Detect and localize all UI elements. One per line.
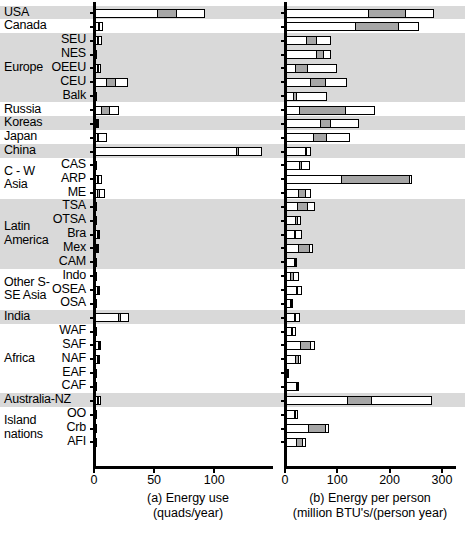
sub-label-osea: OSEA — [20, 283, 86, 296]
bar-segment-gray — [294, 259, 296, 266]
bar-segment-gray — [316, 51, 323, 58]
bar-segment-gray — [287, 370, 289, 377]
y-axis-a — [93, 2, 96, 466]
bar-segment-gray — [295, 356, 299, 363]
group-band-india — [0, 310, 465, 324]
group-label-canada: Canada — [4, 19, 47, 32]
bar-segment-gray — [294, 231, 296, 238]
bar-b-oeeu — [285, 64, 337, 73]
bar-segment-gray — [96, 120, 98, 127]
x-axis-b — [284, 466, 456, 469]
bar-segment-gray — [97, 134, 99, 141]
group-label-usa: USA — [4, 6, 29, 19]
bar-b-cam — [285, 258, 297, 267]
sub-label-indo: Indo — [20, 269, 86, 282]
bar-segment-gray — [157, 10, 177, 17]
bar-b-seu — [285, 36, 331, 45]
bar-segment-gray — [295, 65, 308, 72]
bar-b-canada — [285, 22, 419, 31]
y-axis-b — [284, 2, 287, 466]
bar-a-usa — [94, 9, 205, 18]
bar-b-me — [285, 189, 311, 198]
bar-a-me — [94, 189, 105, 198]
caption-b: (b) Energy per person(million BTU's/(per… — [265, 491, 465, 521]
caption-a: (a) Energy use(quads/year) — [83, 491, 293, 521]
bar-b-naf — [285, 355, 301, 364]
bar-a-china — [94, 147, 262, 156]
bar-segment-gray — [320, 120, 331, 127]
bar-segment-gray — [297, 203, 308, 210]
bar-segment-gray — [305, 148, 307, 155]
bar-b-saf — [285, 341, 315, 350]
bar-segment-gray — [291, 328, 293, 335]
bar-b-balk — [285, 92, 327, 101]
caption-subtitle-b: (million BTU's/(person year) — [265, 506, 465, 521]
sub-label-crb: Crb — [20, 421, 86, 434]
bar-segment-gray — [298, 190, 307, 197]
bar-segment-gray — [96, 245, 98, 252]
bar-segment-gray — [97, 231, 99, 238]
bar-segment-gray — [296, 383, 298, 390]
bar-b-koreas — [285, 119, 359, 128]
bar-segment-gray — [97, 176, 99, 183]
x-tick-label: 100 — [194, 473, 234, 487]
sub-label-bra: Bra — [20, 227, 86, 240]
sub-label-oeeu: OEEU — [20, 61, 86, 74]
sub-label-ceu: CEU — [20, 75, 86, 88]
bar-segment-gray — [306, 37, 317, 44]
sub-label-arp: ARP — [20, 172, 86, 185]
bar-segment-gray — [97, 37, 99, 44]
sub-label-mex: Mex — [20, 241, 86, 254]
bar-segment-gray — [296, 439, 302, 446]
group-label-koreas: Koreas — [4, 116, 42, 129]
bar-b-otsa — [285, 216, 301, 225]
sub-label-otsa: OTSA — [20, 213, 86, 226]
bar-segment-gray — [97, 65, 99, 72]
bar-segment-gray — [313, 134, 327, 141]
bar-segment-gray — [294, 411, 296, 418]
x-tick-label: 100 — [317, 473, 357, 487]
bar-segment-gray — [290, 300, 292, 307]
bar-b-afi — [285, 438, 306, 447]
sub-label-osa: OSA — [20, 296, 86, 309]
caption-title-b: (b) Energy per person — [265, 491, 465, 506]
bar-segment-gray — [355, 23, 400, 30]
bar-b-usa — [285, 9, 434, 18]
sub-label-oo: OO — [20, 407, 86, 420]
group-band-koreas — [0, 116, 465, 130]
bar-segment-gray — [106, 79, 116, 86]
bar-segment-gray — [347, 397, 372, 404]
bar-b-ceu — [285, 78, 347, 87]
bar-segment-gray — [294, 314, 296, 321]
bar-segment-gray — [98, 23, 100, 30]
sub-label-me: ME — [20, 186, 86, 199]
bar-b-oo — [285, 410, 298, 419]
bar-segment-gray — [296, 287, 298, 294]
group-label-japan: Japan — [4, 130, 37, 143]
bar-b-caf — [285, 382, 299, 391]
bar-a-japan — [94, 133, 107, 142]
bar-b-arp — [285, 175, 412, 184]
bar-b-australia-nz — [285, 396, 432, 405]
x-tick-label: 0 — [74, 473, 114, 487]
bar-segment-gray — [299, 162, 303, 169]
bar-segment-gray — [293, 93, 297, 100]
bar-b-nes — [285, 50, 331, 59]
bar-segment-gray — [299, 107, 347, 114]
bar-b-india — [285, 313, 300, 322]
bar-b-osea — [285, 286, 302, 295]
sub-label-waf: WAF — [20, 324, 86, 337]
bar-segment-gray — [118, 314, 121, 321]
bar-b-japan — [285, 133, 350, 142]
bar-a-russia — [94, 106, 119, 115]
bar-segment-gray — [295, 217, 298, 224]
bar-b-cas — [285, 161, 310, 170]
x-tick-label: 200 — [370, 473, 410, 487]
bar-segment-gray — [97, 287, 99, 294]
bar-segment-gray — [310, 79, 326, 86]
bar-b-indo — [285, 272, 299, 281]
bar-b-tsa — [285, 202, 315, 211]
sub-label-cam: CAM — [20, 255, 86, 268]
sub-label-seu: SEU — [20, 33, 86, 46]
bar-segment-gray — [98, 342, 100, 349]
